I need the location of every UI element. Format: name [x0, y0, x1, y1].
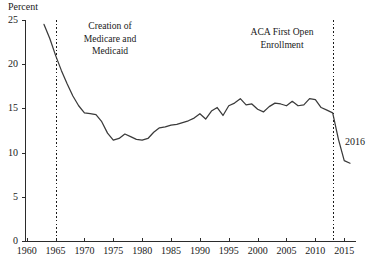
y-tick-label: 5	[0, 191, 18, 202]
x-tick-label: 2015	[327, 245, 361, 256]
y-tick-label: 10	[0, 147, 18, 158]
endpoint-2016-label: 2016	[345, 136, 365, 147]
annotation-line-2: Enrollment	[233, 39, 331, 52]
annotation-line-2: Medicare and	[63, 33, 157, 46]
chart-container: Percent 2520151050 196019651970197519801…	[0, 0, 375, 268]
aca-annotation: ACA First Open Enrollment	[233, 26, 331, 51]
annotation-line-1: Creation of	[63, 20, 157, 33]
annotation-line-1: ACA First Open	[233, 26, 331, 39]
medicare-medicaid-annotation: Creation of Medicare and Medicaid	[63, 20, 157, 58]
annotation-line-3: Medicaid	[63, 45, 157, 58]
y-tick-label: 20	[0, 58, 18, 69]
y-tick-label: 25	[0, 14, 18, 25]
y-tick-label: 15	[0, 102, 18, 113]
